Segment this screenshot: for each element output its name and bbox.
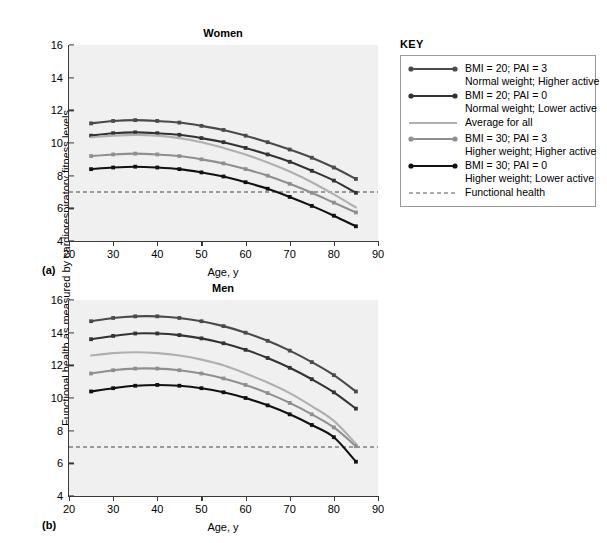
- series-marker: [133, 314, 137, 318]
- x-tick-label: 80: [328, 503, 340, 515]
- key-entry: Average for all: [407, 116, 589, 130]
- series-marker: [244, 396, 248, 400]
- series-marker: [177, 121, 181, 125]
- x-tick-mark: [113, 241, 114, 246]
- y-tick-label: 6: [57, 202, 63, 214]
- series-marker: [133, 130, 137, 134]
- key-title: KEY: [400, 38, 424, 50]
- series-marker: [200, 386, 204, 390]
- key-line-swatch-icon: [407, 159, 459, 173]
- y-tick-label: 10: [51, 137, 63, 149]
- x-tick-mark: [334, 241, 335, 246]
- series-marker: [89, 390, 93, 394]
- key-entry-line2: Higher weight; Higher active: [465, 145, 596, 158]
- series-marker: [155, 314, 159, 318]
- series-marker: [244, 146, 248, 150]
- x-tick-mark: [201, 241, 202, 246]
- series-marker: [266, 174, 270, 178]
- series-marker: [244, 134, 248, 138]
- x-tick-mark: [113, 496, 114, 501]
- series-line: [91, 135, 356, 208]
- series-marker: [332, 179, 336, 183]
- series-marker: [222, 140, 226, 144]
- series-marker: [133, 165, 137, 169]
- chart-title-women: Women: [68, 27, 378, 39]
- x-axis-title-women: Age, y: [68, 266, 378, 278]
- series-marker: [288, 148, 292, 152]
- chart-lines: [69, 45, 378, 241]
- figure-root: Functional health as measured by cardior…: [0, 0, 607, 543]
- key-entry: BMI = 20; PAI = 0Normal weight; Lower ac…: [407, 89, 589, 114]
- series-marker: [266, 403, 270, 407]
- series-marker: [133, 367, 137, 371]
- y-tick-label: 16: [51, 39, 63, 51]
- x-tick-mark: [246, 496, 247, 501]
- series-marker: [332, 435, 336, 439]
- x-tick-mark: [290, 241, 291, 246]
- y-tick-label: 16: [51, 294, 63, 306]
- series-marker: [177, 333, 181, 337]
- series-marker: [200, 171, 204, 175]
- x-tick-label: 60: [239, 248, 251, 260]
- series-marker: [244, 331, 248, 335]
- key-entry-label: BMI = 30; PAI = 3Higher weight; Higher a…: [465, 132, 596, 157]
- y-tick-label: 8: [57, 170, 63, 182]
- key-entry-line1: Average for all: [465, 116, 533, 129]
- x-tick-label: 90: [372, 503, 384, 515]
- x-tick-mark: [290, 496, 291, 501]
- y-tick-label: 12: [51, 104, 63, 116]
- series-marker: [244, 167, 248, 171]
- series-marker: [89, 372, 93, 376]
- key-box: BMI = 20; PAI = 3Normal weight; Higher a…: [400, 55, 596, 207]
- series-marker: [155, 332, 159, 336]
- y-tick-label: 8: [57, 425, 63, 437]
- x-tick-label: 30: [107, 248, 119, 260]
- x-tick-mark: [69, 496, 70, 501]
- x-tick-label: 90: [372, 248, 384, 260]
- x-tick-mark: [246, 241, 247, 246]
- series-marker: [111, 316, 115, 320]
- y-tick-label: 6: [57, 457, 63, 469]
- series-marker: [133, 118, 137, 122]
- y-tick-label: 4: [57, 490, 63, 502]
- key-line-swatch-icon: [407, 186, 459, 200]
- series-marker: [222, 128, 226, 132]
- key-entry: Functional health: [407, 186, 589, 200]
- series-marker: [244, 383, 248, 387]
- key-entry-label: BMI = 20; PAI = 0Normal weight; Lower ac…: [465, 89, 597, 114]
- series-marker: [155, 119, 159, 123]
- series-marker: [222, 162, 226, 166]
- panel-letter-a: (a): [42, 264, 55, 276]
- series-marker: [222, 324, 226, 328]
- key-entry-line1: Functional health: [465, 186, 545, 199]
- series-marker: [89, 122, 93, 126]
- x-tick-label: 40: [151, 248, 163, 260]
- key-entry: BMI = 20; PAI = 3Normal weight; Higher a…: [407, 62, 589, 87]
- x-tick-mark: [201, 496, 202, 501]
- x-tick-label: 20: [63, 503, 75, 515]
- key-entry-line1: BMI = 30; PAI = 3: [465, 132, 596, 145]
- series-marker: [310, 377, 314, 381]
- series-marker: [244, 348, 248, 352]
- key-line-swatch-icon: [407, 62, 459, 76]
- x-tick-mark: [334, 496, 335, 501]
- key-entry-line1: BMI = 20; PAI = 0: [465, 89, 597, 102]
- series-marker: [133, 152, 137, 156]
- series-marker: [133, 384, 137, 388]
- series-marker: [244, 180, 248, 184]
- series-marker: [266, 153, 270, 157]
- series-marker: [354, 444, 358, 448]
- series-marker: [89, 337, 93, 341]
- key-entry: BMI = 30; PAI = 0Higher weight; Lower ac…: [407, 159, 589, 184]
- series-marker: [332, 166, 336, 170]
- series-marker: [354, 211, 358, 215]
- x-tick-mark: [378, 496, 379, 501]
- series-marker: [310, 169, 314, 173]
- chart-title-men: Men: [68, 282, 378, 294]
- series-marker: [354, 460, 358, 464]
- series-marker: [332, 426, 336, 430]
- series-marker: [310, 204, 314, 208]
- series-marker: [266, 140, 270, 144]
- series-marker: [310, 191, 314, 195]
- series-marker: [354, 390, 358, 394]
